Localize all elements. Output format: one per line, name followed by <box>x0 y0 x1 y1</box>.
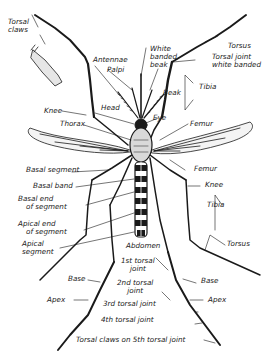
label-femur-top: Femur <box>190 120 213 128</box>
label-white-banded-beak: White banded beak <box>150 45 177 69</box>
antennae <box>118 74 164 118</box>
label-antennae: Antennae <box>93 56 128 64</box>
label-apical-segment: Apical segment <box>22 240 54 256</box>
right-middle-leg <box>150 155 260 275</box>
label-palpi: Palpi <box>107 66 124 74</box>
label-tarsal-claws: Torsal claws <box>8 18 29 34</box>
label-head: Head <box>101 104 120 112</box>
label-tarsal-joint-white-banded: Torsal joint white banded <box>212 53 261 69</box>
label-basal-segment: Basal segment <box>26 166 79 174</box>
label-tibia-right: Tibia <box>207 201 224 209</box>
label-basal-band: Basal band <box>33 182 73 190</box>
label-tibia-top: Tibia <box>199 83 216 91</box>
label-base-right: Base <box>201 277 219 285</box>
label-second-tarsal-joint: 2nd torsal joint <box>117 279 153 295</box>
label-third-tarsal-joint: 3rd torsal joint <box>103 300 156 308</box>
label-thorax: Thorax <box>60 120 85 128</box>
label-knee-right: Knee <box>205 181 223 189</box>
label-base-left: Base <box>68 275 86 283</box>
label-knee-left: Knee <box>44 107 62 115</box>
mosquito-anatomy-diagram: Torsal claws Antennae Palpi White banded… <box>0 0 279 356</box>
label-apex-right: Apex <box>208 296 226 304</box>
tarsal-claw-inset <box>31 45 62 86</box>
label-eye: Eye <box>153 114 166 122</box>
label-fourth-tarsal-joint: 4th torsal joint <box>101 316 154 324</box>
label-torsus-right: Torsus <box>227 240 250 248</box>
label-first-tarsal-joint: 1st torsal joint <box>121 257 155 273</box>
label-beak: Beak <box>163 89 181 97</box>
label-abdomen: Abdomen <box>126 242 160 250</box>
label-basal-end-of-segment: Basal end of segment <box>18 195 67 211</box>
label-torsus-top: Torsus <box>228 42 251 50</box>
body <box>130 119 152 237</box>
label-femur-right: Femur <box>194 165 217 173</box>
label-apical-end-of-segment: Apical end of segment <box>18 220 67 236</box>
label-apex-left: Apex <box>47 296 65 304</box>
left-wing <box>28 128 130 153</box>
label-tarsal-claws-5th-joint: Torsal claws on 5th torsal joint <box>76 336 185 344</box>
